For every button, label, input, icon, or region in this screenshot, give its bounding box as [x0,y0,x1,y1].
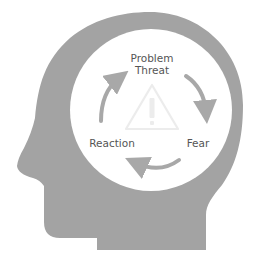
label-problem: Problem [131,52,174,64]
label-reaction: Reaction [89,137,135,149]
label-fear: Fear [187,137,210,149]
label-threat: Threat [134,64,169,76]
fear-cycle-diagram: Problem Threat Fear Reaction [0,0,254,263]
